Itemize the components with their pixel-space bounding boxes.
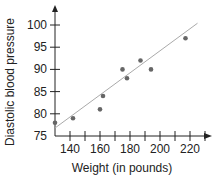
y-tick-label: 100 xyxy=(27,18,47,32)
y-axis-label: Diastolic blood pressure xyxy=(3,18,17,146)
y-tick-label: 90 xyxy=(34,62,48,76)
x-tick-label: 200 xyxy=(150,142,170,156)
x-axis-label: Weight (in pounds) xyxy=(72,161,173,175)
data-point xyxy=(149,67,154,72)
y-tick-label: 75 xyxy=(34,129,48,143)
data-point xyxy=(98,107,103,112)
data-point xyxy=(125,76,130,81)
scatter-chart: 7580859095100140160180200220 Weight (in … xyxy=(0,0,216,180)
trend-line-segment xyxy=(55,23,198,128)
data-point xyxy=(138,58,143,63)
y-tick-label: 95 xyxy=(34,40,48,54)
y-axis-arrow-icon xyxy=(52,5,58,12)
y-tick-label: 80 xyxy=(34,107,48,121)
data-point xyxy=(53,120,58,125)
x-tick-label: 220 xyxy=(180,142,200,156)
x-tick-label: 160 xyxy=(90,142,110,156)
y-tick-label: 85 xyxy=(34,85,48,99)
data-point xyxy=(71,116,76,121)
x-tick-label: 140 xyxy=(60,142,80,156)
x-tick-label: 180 xyxy=(120,142,140,156)
data-point xyxy=(101,94,106,99)
data-point xyxy=(183,36,188,41)
data-point xyxy=(120,67,125,72)
trend-line xyxy=(55,23,198,128)
